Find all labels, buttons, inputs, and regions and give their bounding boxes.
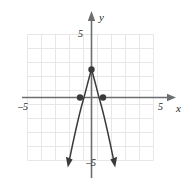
x-axis-arrow-icon: [167, 94, 176, 101]
curve-left-arrow-icon: [66, 157, 73, 168]
y-tick-label-negative: –5: [86, 158, 96, 168]
y-tick-label-positive: 5: [78, 29, 83, 39]
x-tick-label-negative: –5: [18, 102, 28, 112]
y-axis: [88, 11, 95, 178]
y-axis-arrow-icon: [88, 11, 95, 21]
y-axis-label: y: [99, 12, 104, 23]
x-intercept-right-point: [100, 94, 106, 100]
x-intercept-left-point: [77, 94, 83, 100]
x-axis-label: x: [176, 103, 181, 114]
parabola-graph-figure: y x 5 –5 5 –5: [0, 0, 188, 184]
x-tick-label-positive: 5: [158, 102, 163, 112]
vertex-point: [88, 66, 94, 72]
